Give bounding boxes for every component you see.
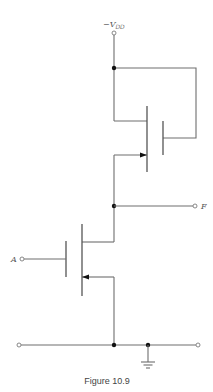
supply-terminal (112, 31, 116, 35)
driver-transistor (24, 224, 114, 296)
load-arrow-icon (140, 153, 147, 158)
load-transistor (114, 106, 163, 172)
driver-arrow-icon (82, 275, 89, 280)
output-label: F (200, 202, 207, 211)
load-gate-feedback-wire (114, 68, 196, 138)
ground-rail-right-terminal (196, 343, 200, 347)
circuit-diagram: −VDD F A Figure 10.9 (0, 0, 213, 392)
ground-rail-left-terminal (17, 343, 21, 347)
figure-caption: Figure 10.9 (84, 376, 130, 386)
supply-label: −VDD (103, 20, 125, 30)
supply-junction-dot (112, 66, 116, 70)
ground-junction-dot-left (112, 343, 116, 347)
ground-icon (141, 345, 155, 368)
output-terminal (193, 204, 197, 208)
input-label: A (10, 255, 17, 264)
input-terminal (20, 257, 24, 261)
